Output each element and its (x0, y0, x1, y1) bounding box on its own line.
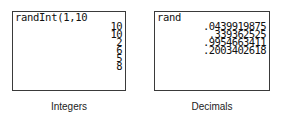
command-line: randInt(1,10 (15, 13, 87, 22)
result-value: 8 (111, 62, 122, 70)
result-value: .2003402618 (203, 46, 266, 54)
caption-integers: Integers (12, 101, 126, 112)
caption-decimals: Decimals (154, 101, 270, 112)
results-list: .0439919875 .339362525 .9954663411 .2003… (203, 22, 266, 54)
calculator-screen-integers: randInt(1,10 10 10 2 6 5 8 (12, 11, 126, 91)
results-list: 10 10 2 6 5 8 (111, 22, 122, 70)
command-line: rand (157, 13, 181, 22)
calculator-screen-decimals: rand .0439919875 .339362525 .9954663411 … (154, 11, 270, 91)
